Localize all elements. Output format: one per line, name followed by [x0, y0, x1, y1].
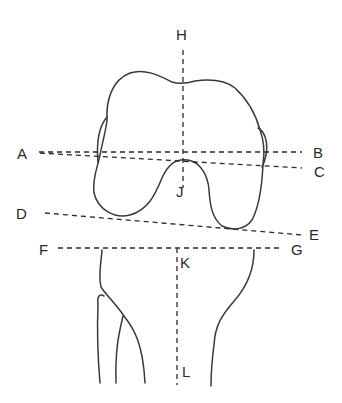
fibula-inner-edge: [116, 316, 123, 383]
label-E: E: [309, 227, 319, 242]
knee-diagram: [0, 0, 342, 403]
label-C: C: [314, 164, 325, 179]
label-B: B: [313, 145, 323, 160]
label-K: K: [180, 255, 190, 270]
label-G: G: [291, 242, 303, 257]
label-D: D: [16, 206, 27, 221]
line-D-E: [45, 213, 302, 235]
femur-outline: [94, 71, 264, 229]
label-H: H: [176, 27, 187, 42]
tibia-right-edge: [211, 250, 254, 386]
label-J: J: [176, 184, 184, 199]
femur-lateral-bulge: [258, 128, 267, 167]
fibula-outline: [98, 295, 104, 383]
label-A: A: [17, 146, 27, 161]
label-F: F: [39, 242, 48, 257]
label-L: L: [182, 364, 190, 379]
